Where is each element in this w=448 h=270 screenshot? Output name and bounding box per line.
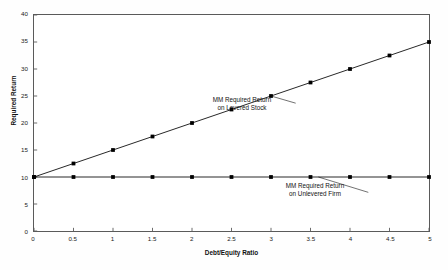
y-tick-label: 40 (4, 11, 28, 17)
data-point-marker (427, 175, 431, 179)
y-axis-tick-labels: 0510152025303540 (0, 14, 28, 232)
x-tick-label: 3.5 (296, 236, 326, 242)
y-tick-label: 35 (4, 38, 28, 44)
data-point-marker (230, 108, 234, 112)
x-axis-title: Debt/Equity Ratio (33, 249, 430, 256)
data-point-marker (111, 175, 115, 179)
data-point-marker (72, 162, 76, 166)
x-tick-label: 5 (415, 236, 445, 242)
x-tick-label: 1 (97, 236, 127, 242)
annotation-leader-line-0 (271, 96, 296, 103)
data-point-marker (72, 175, 76, 179)
x-tick-label: 0 (18, 236, 48, 242)
data-point-marker (388, 54, 392, 58)
plot-area: MM Required Return on Levered Stock MM R… (33, 14, 430, 232)
y-tick-label: 0 (4, 229, 28, 235)
annotation-leader-line-1 (318, 177, 368, 192)
data-point-marker (151, 175, 155, 179)
x-tick-label: 2 (177, 236, 207, 242)
data-point-marker (309, 175, 313, 179)
y-tick-label: 5 (4, 202, 28, 208)
data-point-marker (427, 40, 431, 44)
y-tick-label: 10 (4, 174, 28, 180)
y-tick-label: 30 (4, 65, 28, 71)
data-point-marker (269, 175, 273, 179)
data-point-marker (309, 81, 313, 85)
data-point-marker (348, 67, 352, 71)
x-tick-label: 4 (336, 236, 366, 242)
data-point-marker (151, 135, 155, 139)
chart-canvas (34, 15, 429, 231)
data-point-marker (348, 175, 352, 179)
y-tick-label: 25 (4, 93, 28, 99)
data-point-marker (111, 148, 115, 152)
x-axis-tick-labels: 00.511.522.533.544.55 (33, 236, 430, 248)
data-point-marker (230, 175, 234, 179)
data-point-marker (190, 175, 194, 179)
x-tick-label: 2.5 (217, 236, 247, 242)
y-tick-label: 15 (4, 147, 28, 153)
y-tick-label: 20 (4, 120, 28, 126)
data-point-marker (32, 175, 36, 179)
chart-figure: Required Return 0510152025303540 MM Requ… (0, 0, 448, 270)
data-point-marker (388, 175, 392, 179)
x-tick-label: 1.5 (137, 236, 167, 242)
x-tick-label: 4.5 (375, 236, 405, 242)
x-tick-label: 3 (256, 236, 286, 242)
x-tick-label: 0.5 (58, 236, 88, 242)
data-point-marker (190, 121, 194, 125)
